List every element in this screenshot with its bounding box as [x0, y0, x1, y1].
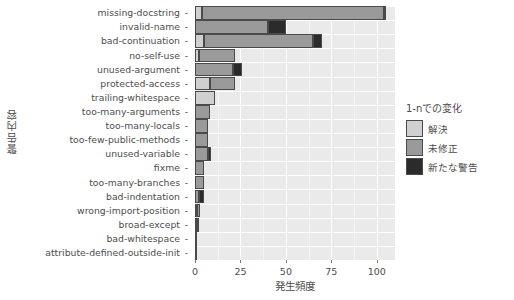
bar-segment [195, 20, 268, 34]
bar-segment [195, 176, 204, 190]
x-axis-tick-label: 75 [325, 266, 337, 277]
bar-row [195, 105, 395, 119]
x-axis-tick-mark [286, 260, 287, 263]
bar-segment [210, 77, 235, 91]
bar-segment [202, 6, 384, 20]
bar-segment [195, 246, 197, 260]
x-axis-tick-label: 0 [192, 266, 198, 277]
y-axis-title-text: 警告内容 [4, 108, 19, 154]
legend-items: 解決未修正新たな警告 [406, 120, 510, 175]
y-axis-tick-label: too-many-arguments [82, 105, 180, 119]
y-axis-tick-mark: - [185, 77, 188, 91]
x-axis-tick-mark [331, 260, 332, 263]
y-axis-tick-mark: - [185, 161, 188, 175]
bar-row [195, 147, 395, 161]
bar-row [195, 161, 395, 175]
bar-row [195, 190, 395, 204]
bar-segment [197, 218, 199, 232]
bar-segment [195, 232, 197, 246]
bar-segment [384, 6, 386, 20]
y-axis-tick-label: bad-whitespace [106, 232, 180, 246]
y-axis-tick-mark: - [185, 176, 188, 190]
bar-row [195, 133, 395, 147]
bar-row [195, 176, 395, 190]
plot-area [195, 6, 395, 260]
bar-segment [195, 119, 208, 133]
x-axis-title: 発生頻度 [195, 278, 395, 293]
bar-segment [197, 204, 201, 218]
bar-row [195, 204, 395, 218]
legend-item[interactable]: 未修正 [406, 139, 510, 156]
bar-segment [195, 77, 210, 91]
y-axis-tick-label: bad-indentation [106, 190, 180, 204]
y-axis-tick-mark: - [185, 6, 188, 20]
bar-segment [195, 105, 210, 119]
y-axis-tick-label: trailing-whitespace [91, 91, 180, 105]
y-axis-tick-mark: - [185, 105, 188, 119]
x-axis-tick-label: 100 [368, 266, 386, 277]
bar-row [195, 20, 395, 34]
bar-row [195, 246, 395, 260]
legend-label: 新たな警告 [428, 160, 478, 174]
y-axis-tick-label: wrong-import-position [77, 204, 180, 218]
legend-title: 1-nでの変化 [406, 100, 510, 115]
bar-segment [199, 49, 235, 63]
legend-label: 未修正 [428, 141, 458, 155]
y-axis-tick-mark: - [185, 34, 188, 48]
bar-row [195, 49, 395, 63]
bar-segment [195, 63, 233, 77]
y-axis-tick-label: too-many-locals [106, 119, 180, 133]
legend-swatch [406, 120, 423, 137]
x-axis-tick-mark [195, 260, 196, 263]
bar-row [195, 63, 395, 77]
y-axis-tick-label: attribute-defined-outside-init [45, 246, 180, 260]
bar-segment [195, 161, 204, 175]
y-axis-tick-label: fixme [154, 161, 180, 175]
bar-row [195, 218, 395, 232]
x-axis-tick-mark [240, 260, 241, 263]
y-axis-tick-mark: - [185, 147, 188, 161]
bar-segment [195, 34, 204, 48]
bar-row [195, 6, 395, 20]
y-axis-tick-mark: - [185, 91, 188, 105]
y-axis-tick-label: broad-except [119, 218, 180, 232]
y-axis-tick-label: unused-argument [97, 63, 180, 77]
y-axis-tick-label: bad-continuation [101, 34, 180, 48]
legend-swatch [406, 158, 423, 175]
x-axis-tick-label: 50 [280, 266, 292, 277]
bar-segment [199, 190, 204, 204]
y-axis-tick-mark: - [185, 190, 188, 204]
bar-row [195, 77, 395, 91]
bar-row [195, 119, 395, 133]
y-axis-tick-mark: - [185, 119, 188, 133]
y-axis-tick-label: too-few-public-methods [69, 133, 180, 147]
legend-label: 解決 [428, 122, 448, 136]
y-axis-tick-label: invalid-name [120, 20, 180, 34]
y-axis-tick-label: protected-access [100, 77, 180, 91]
y-axis-tick-label: too-many-branches [89, 176, 180, 190]
y-axis-tick-mark: - [185, 63, 188, 77]
y-axis-tick-label: no-self-use [129, 49, 180, 63]
chart-figure: 警告内容 missing-docstring-invalid-name-bad-… [0, 0, 514, 300]
x-axis-tick-labels: 0255075100 [195, 260, 395, 276]
y-axis-tick-mark: - [185, 246, 188, 260]
y-axis-tick-mark: - [185, 218, 188, 232]
bar-segment [208, 147, 212, 161]
legend-item[interactable]: 新たな警告 [406, 158, 510, 175]
x-axis-tick-mark [377, 260, 378, 263]
legend-item[interactable]: 解決 [406, 120, 510, 137]
bar-segment [268, 20, 286, 34]
legend: 1-nでの変化 解決未修正新たな警告 [406, 100, 510, 177]
bar-segment [204, 34, 313, 48]
bar-segment [195, 133, 208, 147]
y-axis-tick-mark: - [185, 204, 188, 218]
y-axis-tick-mark: - [185, 49, 188, 63]
bar-segment [313, 34, 322, 48]
bar-segment [195, 147, 208, 161]
y-axis-tick-mark: - [185, 133, 188, 147]
bar-segment [195, 6, 202, 20]
bar-row [195, 91, 395, 105]
y-axis-tick-labels: missing-docstring-invalid-name-bad-conti… [18, 8, 188, 258]
bar-row [195, 232, 395, 246]
y-axis-tick-label: unused-variable [105, 147, 180, 161]
